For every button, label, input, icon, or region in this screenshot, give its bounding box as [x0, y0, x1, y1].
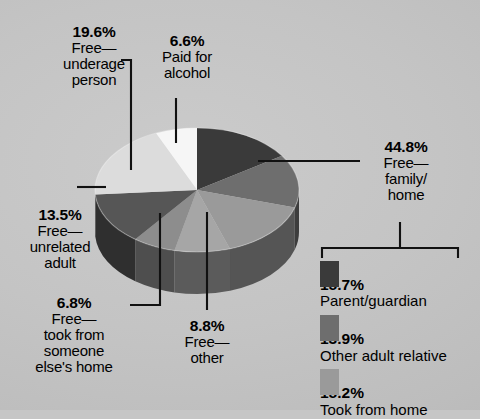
bracket-span	[322, 248, 458, 258]
label-underage: 19.6% Free— underage person	[34, 24, 154, 88]
label-paid-pct: 6.6%	[139, 33, 235, 49]
label-unrelated-line3: adult	[2, 255, 118, 271]
label-family-line1: Free—	[360, 155, 452, 171]
label-other-line1: Free—	[162, 334, 252, 350]
leader-tookfrom	[130, 213, 160, 305]
label-tookfrom-line3: someone	[18, 343, 130, 359]
legend-swatch-other-adult-relative	[320, 315, 339, 341]
label-underage-line3: person	[34, 72, 154, 88]
label-tookfrom-line4: else's home	[18, 359, 130, 375]
label-other-pct: 8.8%	[162, 318, 252, 334]
legend-name-took-from-home: Took from home	[320, 402, 476, 419]
label-unrelated-line2: unrelated	[2, 239, 118, 255]
legend-item[interactable]: 15.2% Took from home	[320, 366, 476, 418]
label-other-line2: other	[162, 350, 252, 366]
label-tookfrom-pct: 6.8%	[18, 295, 130, 311]
label-took-from-someone-else: 6.8% Free— took from someone else's home	[18, 295, 130, 375]
label-underage-line2: underage	[34, 56, 154, 72]
legend-pct-took-from-home: 15.2%	[320, 384, 476, 401]
label-tookfrom-line1: Free—	[18, 311, 130, 327]
legend-pct-other-adult-relative: 13.9%	[320, 330, 476, 347]
label-tookfrom-line2: took from	[18, 327, 130, 343]
label-unrelated-pct: 13.5%	[2, 207, 118, 223]
label-family-line3: home	[360, 187, 452, 203]
label-paid-line1: Paid for	[139, 49, 235, 65]
legend-swatch-parent-guardian	[320, 261, 339, 287]
legend-name-parent-guardian: Parent/guardian	[320, 293, 476, 310]
label-free-other: 8.8% Free— other	[162, 318, 252, 366]
label-paid-line2: alcohol	[139, 65, 235, 81]
label-underage-pct: 19.6%	[34, 24, 154, 40]
label-unrelated-adult: 13.5% Free— unrelated adult	[2, 207, 118, 271]
legend: 15.7% Parent/guardian 13.9% Other adult …	[320, 258, 476, 419]
label-underage-line1: Free—	[34, 40, 154, 56]
legend-name-other-adult-relative: Other adult relative	[320, 348, 476, 365]
legend-pct-parent-guardian: 15.7%	[320, 276, 476, 293]
label-unrelated-line1: Free—	[2, 223, 118, 239]
legend-item[interactable]: 15.7% Parent/guardian	[320, 258, 476, 310]
legend-item[interactable]: 13.9% Other adult relative	[320, 312, 476, 364]
label-family-home: 44.8% Free— family/ home	[360, 139, 452, 203]
label-paid-for-alcohol: 6.6% Paid for alcohol	[139, 33, 235, 81]
label-family-line2: family/	[360, 171, 452, 187]
label-family-pct: 44.8%	[360, 139, 452, 155]
legend-swatch-took-from-home	[320, 369, 339, 395]
